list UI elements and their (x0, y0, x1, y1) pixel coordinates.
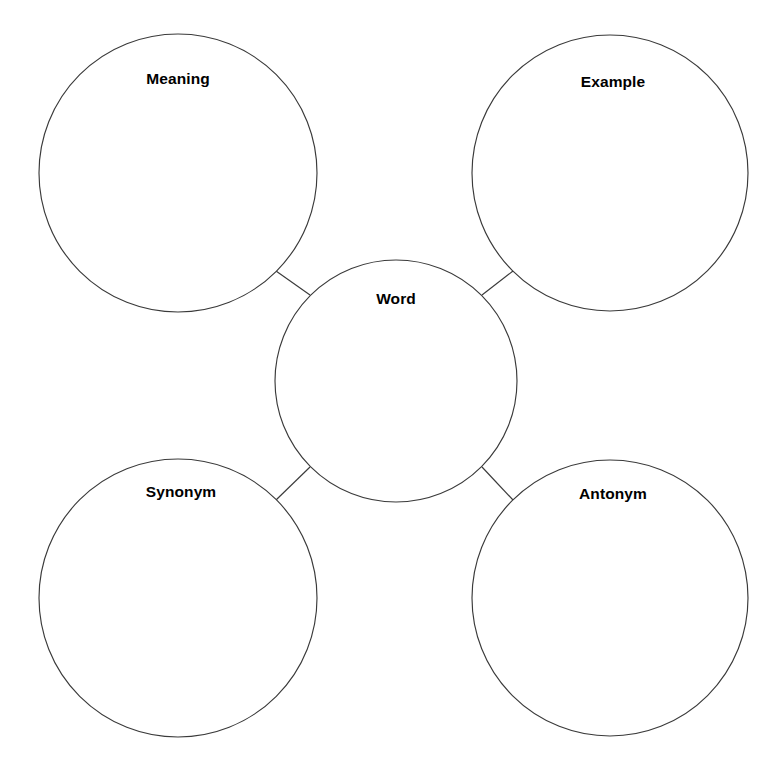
bubble-label-example: Example (581, 73, 645, 91)
bubble-label-antonym: Antonym (579, 485, 647, 503)
bubble-label-meaning: Meaning (146, 70, 210, 88)
worksheet-canvas: Meaning Example Synonym Antonym Word (0, 0, 766, 763)
bubble-label-word: Word (376, 290, 416, 308)
connector-antonym-to-word (482, 467, 513, 500)
connector-synonym-to-word (276, 467, 310, 500)
connector-example-to-word (482, 271, 513, 295)
connector-meaning-to-word (276, 271, 310, 295)
bubble-label-synonym: Synonym (146, 483, 216, 501)
word-web-diagram (0, 0, 766, 763)
